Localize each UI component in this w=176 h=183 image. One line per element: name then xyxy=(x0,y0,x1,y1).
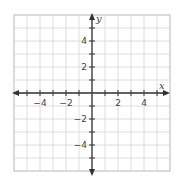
x-tick-label: −4 xyxy=(33,98,47,108)
y-axis-bottom-arrow-icon xyxy=(89,169,95,176)
x-axis-label: x xyxy=(159,80,165,91)
y-axis-label: y xyxy=(95,13,102,24)
y-tick-label: 4 xyxy=(81,36,87,46)
y-tick-label: −2 xyxy=(74,114,87,124)
x-tick-label: −2 xyxy=(59,98,72,108)
x-axis-left-arrow-icon xyxy=(12,90,19,96)
axes xyxy=(12,13,170,176)
y-tick-label: 2 xyxy=(81,62,87,72)
y-axis-top-arrow-icon xyxy=(89,13,95,20)
x-tick-label: 4 xyxy=(141,98,147,108)
y-tick-label: −4 xyxy=(74,140,88,150)
x-tick-label: 2 xyxy=(115,98,121,108)
coordinate-plane: −4−224 42−2−4 x y xyxy=(0,0,176,183)
